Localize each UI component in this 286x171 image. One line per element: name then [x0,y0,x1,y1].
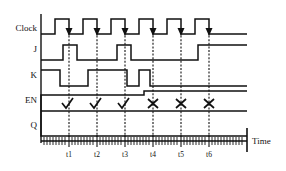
cross-icon-t5 [176,99,186,108]
cross-icon-t6 [204,99,214,108]
time-axis-label: Time [252,136,271,146]
cross-icon-t4 [148,99,158,108]
waveform-k [41,70,247,86]
waveform-j [41,45,247,60]
signal-label-k: K [31,70,38,80]
waveform-clock [41,19,247,34]
signal-label-en: EN [25,95,37,105]
signal-label-j: J [33,44,37,54]
tick-label-t1: t1 [66,150,72,159]
tick-label-t6: t6 [206,150,212,159]
check-icon-t2 [90,98,101,108]
tick-label-t4: t4 [150,150,156,159]
time-marker-labels: t1 t2 t3 t4 t5 t6 [66,150,212,159]
time-axis: Time [41,128,271,152]
check-icon-t3 [118,98,129,108]
signal-labels: Clock J K EN Q [16,23,38,130]
enable-glyphs [62,98,214,108]
signal-label-q: Q [31,120,38,130]
timing-diagram-canvas: Clock J K EN Q [0,0,286,171]
signal-label-clock: Clock [16,23,38,33]
check-icon-t1 [62,98,73,108]
waveform-q [41,111,247,136]
timing-diagram: Clock J K EN Q [0,0,286,171]
tick-label-t5: t5 [178,150,184,159]
tick-label-t3: t3 [122,150,128,159]
tick-label-t2: t2 [94,150,100,159]
